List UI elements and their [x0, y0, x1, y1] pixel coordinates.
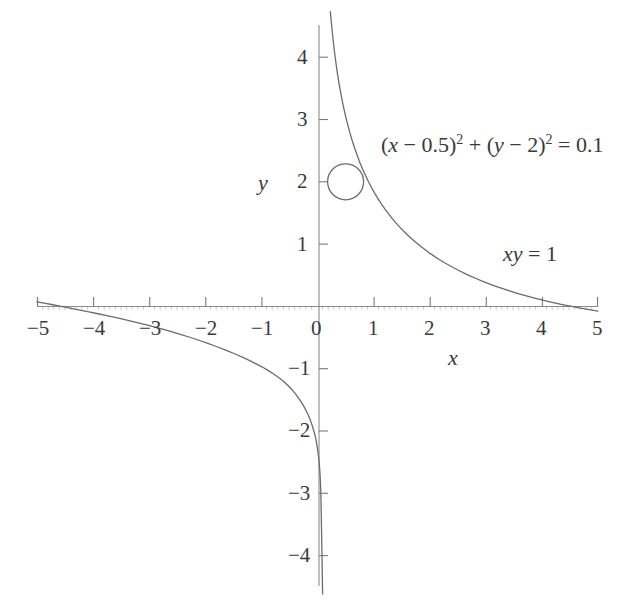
hyperbola-eq-equals: = — [523, 241, 546, 266]
y-tick-label: 1 — [297, 234, 308, 255]
circle-equation-annotation: (x − 0.5)2 + (y − 2)2 = 0.1 — [381, 133, 604, 156]
circle-eq-exponent-b: 2 — [546, 132, 553, 147]
circle-eq-value-a: 0.5 — [422, 132, 450, 157]
x-tick-label: 4 — [536, 318, 547, 339]
circle-eq-equals: = — [553, 132, 576, 157]
hyperbola-eq-lhs: xy — [503, 241, 523, 266]
circle-curve — [328, 164, 364, 200]
hyperbola-equation-annotation: xy = 1 — [503, 243, 557, 265]
circle-eq-var-x: x — [388, 132, 398, 157]
y-tick-label: 3 — [297, 109, 308, 130]
circle-eq-minus-b: − — [504, 132, 527, 157]
x-tick-label: 3 — [480, 318, 491, 339]
plot-canvas — [0, 0, 636, 606]
circle-eq-open-paren-b: ( — [487, 132, 494, 157]
x-axis-major-ticks — [38, 297, 598, 307]
y-tick-label: −3 — [288, 483, 310, 504]
x-tick-label: 1 — [368, 318, 379, 339]
circle-eq-var-y: y — [494, 132, 504, 157]
hyperbola-eq-rhs: 1 — [546, 241, 557, 266]
circle-eq-plus: + — [463, 132, 486, 157]
x-tick-label: −5 — [27, 318, 49, 339]
x-axis — [37, 297, 598, 307]
math-plot-figure: −5 −4 −3 −2 −1 0 1 2 3 4 5 4 3 2 1 −1 −2… — [0, 0, 636, 606]
hyperbola-branch-negative — [37, 302, 323, 594]
y-tick-label: −2 — [288, 420, 310, 441]
x-tick-label: 5 — [592, 318, 603, 339]
y-tick-label: 2 — [297, 171, 308, 192]
y-tick-label: 4 — [297, 47, 308, 68]
x-tick-label: 0 — [311, 318, 322, 339]
hyperbola-branch-positive — [330, 12, 598, 312]
circle-eq-minus-a: − — [398, 132, 421, 157]
x-tick-label: −2 — [195, 318, 217, 339]
x-tick-label: −1 — [251, 318, 273, 339]
circle-eq-close-paren-b: ) — [538, 132, 545, 157]
y-axis-label: y — [258, 172, 268, 194]
circle-eq-rhs: 0.1 — [576, 132, 604, 157]
x-tick-label: 2 — [424, 318, 435, 339]
x-axis-label: x — [448, 347, 458, 369]
y-tick-label: −4 — [288, 545, 310, 566]
circle-eq-value-b: 2 — [527, 132, 538, 157]
y-tick-label: −1 — [288, 358, 310, 379]
x-tick-label: −4 — [83, 318, 105, 339]
x-tick-label: −3 — [139, 318, 161, 339]
